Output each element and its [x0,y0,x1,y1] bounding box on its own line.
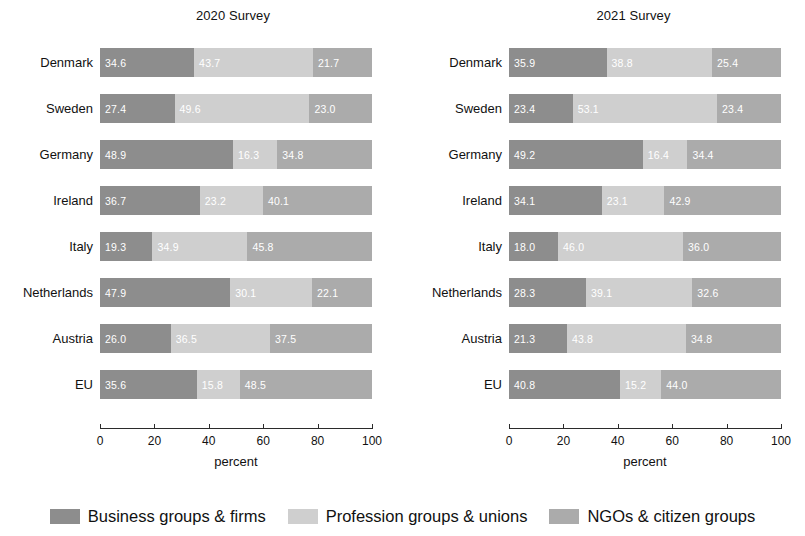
bar-segment-2: 53.1 [573,94,717,123]
category-label-ireland: Ireland [462,186,509,215]
bar-row: Germany49.216.434.4 [509,132,781,178]
stacked-bar: 47.930.122.1 [100,278,372,307]
bar-segment-3: 23.0 [309,94,372,123]
stacked-bar: 34.643.721.7 [100,48,372,77]
bar-segment-1: 35.9 [509,48,607,77]
bar-segment-2: 43.7 [194,48,313,77]
category-label-eu: EU [484,370,509,399]
bar-segment-3: 25.4 [712,48,781,77]
x-axis-title: percent [509,454,781,469]
stacked-bar: 35.938.825.4 [509,48,781,77]
stacked-bar: 21.343.834.8 [509,324,781,353]
legend-label: Profession groups & unions [326,507,528,526]
axis-tick [100,424,101,429]
bar-segment-2: 38.8 [607,48,712,77]
bar-segment-1: 28.3 [509,278,586,307]
legend-swatch-icon [50,509,80,524]
axis-tick-label: 100 [362,434,382,448]
bar-segment-1: 18.0 [509,232,558,261]
plot-area: Denmark34.643.721.7Sweden27.449.623.0Ger… [100,40,372,422]
axis-tick-label: 60 [257,434,270,448]
bar-segment-1: 48.9 [100,140,233,169]
bar-segment-3: 23.4 [717,94,781,123]
axis-tick [318,424,319,429]
axis-tick-label: 60 [666,434,679,448]
bar-segment-3: 48.5 [240,370,372,399]
category-label-sweden: Sweden [455,94,509,123]
bar-row: Germany48.916.334.8 [100,132,372,178]
legend-item-3: NGOs & citizen groups [549,507,755,526]
legend-item-2: Profession groups & unions [288,507,528,526]
bar-row: Austria21.343.834.8 [509,316,781,362]
stacked-bar: 28.339.132.6 [509,278,781,307]
bar-segment-2: 39.1 [586,278,692,307]
axis-tick [372,424,373,429]
category-label-ireland: Ireland [53,186,100,215]
bar-segment-1: 34.1 [509,186,602,215]
bar-rows: Denmark34.643.721.7Sweden27.449.623.0Ger… [100,40,372,408]
axis-tick [154,424,155,429]
x-axis-title: percent [100,454,372,469]
stacked-bar: 27.449.623.0 [100,94,372,123]
chart-panel-2: 2021 SurveyDenmark35.938.825.4Sweden23.4… [402,0,805,490]
bar-segment-1: 47.9 [100,278,230,307]
axis-tick-label: 40 [202,434,215,448]
bar-segment-2: 15.2 [620,370,661,399]
bar-row: Sweden23.453.123.4 [509,86,781,132]
axis-tick-label: 20 [148,434,161,448]
category-label-austria: Austria [462,324,509,353]
legend-label: NGOs & citizen groups [587,507,755,526]
category-label-germany: Germany [449,140,509,169]
category-label-italy: Italy [69,232,100,261]
category-label-denmark: Denmark [449,48,509,77]
axis-tick-label: 80 [720,434,733,448]
chart-legend: Business groups & firmsProfession groups… [0,497,805,536]
axis-tick-label: 40 [611,434,624,448]
bar-segment-1: 34.6 [100,48,194,77]
panel-title: 2021 Survey [402,8,805,23]
stacked-bar: 35.615.848.5 [100,370,372,399]
axis-tick [209,424,210,429]
bar-row: Austria26.036.537.5 [100,316,372,362]
bar-segment-3: 21.7 [313,48,372,77]
bar-segment-3: 34.4 [687,140,781,169]
bar-segment-3: 37.5 [270,324,372,353]
bar-segment-3: 42.9 [664,186,781,215]
axis-tick-label: 20 [557,434,570,448]
bar-segment-2: 23.1 [602,186,665,215]
legend-item-1: Business groups & firms [50,507,266,526]
chart-panel-1: 2020 SurveyDenmark34.643.721.7Sweden27.4… [0,0,402,490]
bar-segment-2: 16.4 [643,140,688,169]
bar-row: Denmark34.643.721.7 [100,40,372,86]
stacked-bar: 34.123.142.9 [509,186,781,215]
bar-row: Sweden27.449.623.0 [100,86,372,132]
bar-segment-3: 40.1 [263,186,372,215]
bar-segment-2: 34.9 [152,232,247,261]
bar-segment-1: 21.3 [509,324,567,353]
bar-segment-3: 32.6 [692,278,781,307]
bar-row: Ireland36.723.240.1 [100,178,372,224]
category-label-netherlands: Netherlands [432,278,509,307]
axis-tick-label: 0 [506,434,513,448]
stacked-bar-chart-figure: 2020 SurveyDenmark34.643.721.7Sweden27.4… [0,0,805,536]
stacked-bar: 49.216.434.4 [509,140,781,169]
axis-line [509,428,781,429]
plot-area: Denmark35.938.825.4Sweden23.453.123.4Ger… [509,40,781,422]
bar-segment-3: 36.0 [683,232,781,261]
bar-segment-3: 34.8 [277,140,372,169]
legend-label: Business groups & firms [88,507,266,526]
axis-tick-label: 0 [97,434,104,448]
chart-panels: 2020 SurveyDenmark34.643.721.7Sweden27.4… [0,0,805,490]
legend-swatch-icon [549,509,579,524]
axis-tick [563,424,564,429]
category-label-italy: Italy [478,232,509,261]
bar-segment-2: 15.8 [197,370,240,399]
bar-segment-1: 26.0 [100,324,171,353]
stacked-bar: 18.046.036.0 [509,232,781,261]
bar-segment-2: 30.1 [230,278,312,307]
category-label-netherlands: Netherlands [23,278,100,307]
axis-line [100,428,372,429]
bar-segment-2: 49.6 [175,94,310,123]
bar-segment-3: 34.8 [686,324,781,353]
axis-tick [618,424,619,429]
